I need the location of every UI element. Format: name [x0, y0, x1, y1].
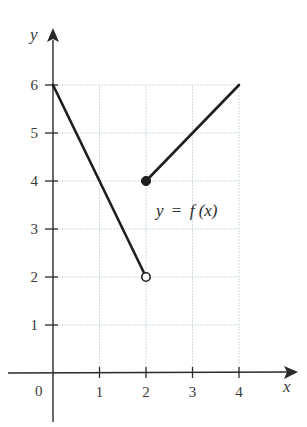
axes	[8, 28, 298, 422]
annotation-arg: (x)	[199, 201, 218, 220]
y-tick-label: 2	[31, 269, 39, 285]
tick-labels: 1234123456	[31, 77, 244, 400]
origin-label: 0	[35, 383, 43, 399]
filled-circle-icon	[141, 176, 150, 185]
function-annotation: y = f (x)	[154, 201, 218, 220]
open-circle-icon	[142, 273, 150, 281]
annotation-f: f	[190, 201, 197, 220]
y-tick-label: 3	[31, 221, 39, 237]
x-tick-label: 3	[189, 384, 197, 400]
function-graph: 1234123456 y x 0 y = f (x)	[0, 0, 307, 427]
y-tick-label: 5	[31, 125, 39, 141]
y-tick-label: 1	[31, 317, 39, 333]
y-tick-label: 4	[31, 173, 39, 189]
x-tick-label: 4	[235, 384, 243, 400]
y-axis-arrow-icon	[47, 28, 59, 42]
annotation-equals: =	[172, 201, 182, 220]
x-tick-label: 1	[96, 384, 104, 400]
y-axis-label: y	[28, 25, 38, 44]
x-axis-line	[8, 372, 290, 373]
y-tick-label: 6	[31, 77, 39, 93]
grid-lines	[53, 85, 239, 373]
annotation-y: y	[154, 201, 164, 220]
x-tick-label: 2	[142, 384, 150, 400]
x-axis-label: x	[282, 377, 291, 396]
